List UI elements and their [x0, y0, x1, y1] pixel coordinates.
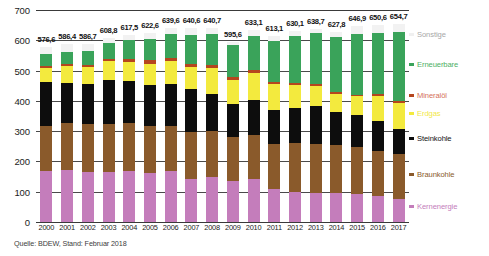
bar-segment-kernenergie [206, 177, 218, 222]
bar-segment-erneuerbare [268, 41, 280, 81]
legend-label: Mineralöl [417, 91, 447, 100]
bar-segment-kernenergie [248, 179, 260, 222]
bar-total-label: 638,7 [307, 17, 325, 26]
bar-column[interactable] [103, 38, 115, 222]
bar-column[interactable] [310, 29, 322, 222]
legend-item-steinkohle[interactable]: Steinkohle [409, 134, 451, 143]
legend-swatch-icon [409, 205, 414, 208]
bar-segment-erneuerbare [123, 40, 135, 59]
bar-segment-erneuerbare [103, 43, 115, 59]
bar-segment-erdgas [393, 103, 405, 129]
bar-segment-kernenergie [372, 196, 384, 222]
x-axis-tick-label: 2006 [163, 223, 179, 232]
bar-segment-kernenergie [393, 199, 405, 222]
bar-segment-erneuerbare [144, 39, 156, 61]
bar-segment-steinkohle [227, 104, 239, 137]
y-axis-tick-label: 0 [25, 217, 30, 228]
bar-column[interactable] [289, 31, 301, 222]
legend-label: Sonstige [417, 30, 446, 39]
legend-item-kernenergie[interactable]: Kernenergie [409, 202, 457, 211]
x-axis-tick-label: 2007 [184, 223, 200, 232]
bar-segment-erneuerbare [330, 37, 342, 92]
bar-segment-erneuerbare [206, 34, 218, 65]
bar-column[interactable] [185, 28, 197, 222]
bar-total-label: 586,4 [58, 32, 76, 41]
bar-column[interactable] [330, 32, 342, 222]
bar-segment-erneuerbare [289, 36, 301, 82]
bar-column[interactable] [372, 25, 384, 222]
bar-column[interactable] [206, 28, 218, 222]
legend-item-sonstige[interactable]: Sonstige [409, 30, 446, 39]
bar-segment-kernenergie [310, 193, 322, 222]
bar-column[interactable] [61, 44, 73, 222]
bar-column[interactable] [144, 33, 156, 222]
bar-segment-braunkohle [227, 137, 239, 181]
bar-column[interactable] [268, 36, 280, 222]
legend-swatch-icon [409, 94, 414, 97]
bar-total-label: 646,9 [348, 14, 366, 23]
bar-segment-sonstige [82, 44, 94, 51]
bar-segment-braunkohle [330, 145, 342, 192]
legend-label: Erdgas [417, 109, 440, 118]
legend-item-erneuerbare[interactable]: Erneuerbare [409, 60, 458, 69]
bar-segment-braunkohle [144, 126, 156, 173]
bar-segment-steinkohle [372, 121, 384, 151]
bar-column[interactable] [123, 35, 135, 222]
bar-column[interactable] [393, 24, 405, 222]
bar-segment-erdgas [310, 86, 322, 106]
legend-label: Kernenergie [417, 202, 457, 211]
bar-segment-erdgas [123, 62, 135, 81]
y-axis-tick-label: 200 [14, 156, 30, 167]
bar-segment-erneuerbare [351, 34, 363, 95]
bar-column[interactable] [165, 28, 177, 222]
legend-item-braunkohle[interactable]: Braunkohle [409, 170, 454, 179]
x-axis-tick-label: 2000 [39, 223, 55, 232]
legend-item-minerall[interactable]: Mineralöl [409, 91, 447, 100]
bar-segment-kernenergie [330, 193, 342, 222]
bar-segment-steinkohle [310, 106, 322, 144]
bar-segment-erdgas [61, 66, 73, 83]
bar-segment-braunkohle [268, 144, 280, 189]
bar-segment-kernenergie [144, 173, 156, 222]
x-axis-tick-label: 2002 [80, 223, 96, 232]
bar-segment-sonstige [40, 47, 52, 54]
bar-segment-steinkohle [330, 112, 342, 145]
legend-swatch-icon [409, 112, 414, 115]
legend-swatch-icon [409, 33, 414, 36]
bar-total-label: 633,1 [245, 18, 263, 27]
bar-segment-steinkohle [206, 94, 218, 132]
bar-segment-erdgas [103, 61, 115, 80]
bar-segment-erneuerbare [40, 54, 52, 66]
bar-segment-erdgas [248, 73, 260, 100]
x-axis-tick-label: 2016 [370, 223, 386, 232]
bar-segment-steinkohle [268, 110, 280, 144]
bar-segment-steinkohle [248, 100, 260, 135]
bar-segment-erdgas [227, 80, 239, 104]
bar-total-label: 617,5 [120, 23, 138, 32]
bar-column[interactable] [227, 42, 239, 222]
bar-segment-steinkohle [144, 85, 156, 126]
bar-total-label: 640,6 [183, 16, 201, 25]
x-axis-tick-label: 2001 [59, 223, 75, 232]
bar-column[interactable] [40, 47, 52, 222]
bar-segment-kernenergie [351, 194, 363, 222]
x-axis-tick-label: 2017 [391, 223, 407, 232]
bar-column[interactable] [351, 26, 363, 222]
bar-segment-kernenergie [103, 172, 115, 222]
x-axis: 2000200120022003200420052006200720082009… [36, 222, 409, 236]
x-axis-tick-label: 2012 [287, 223, 303, 232]
legend-item-erdgas[interactable]: Erdgas [409, 109, 440, 118]
bar-segment-erdgas [351, 96, 363, 115]
bar-total-label: 576,6 [38, 35, 56, 44]
x-axis-tick-label: 2005 [142, 223, 158, 232]
bar-segment-braunkohle [40, 126, 52, 171]
y-axis-tick-label: 100 [14, 186, 30, 197]
bar-segment-erneuerbare [227, 45, 239, 77]
bar-column[interactable] [248, 30, 260, 222]
bar-segment-erdgas [330, 94, 342, 113]
bar-segment-braunkohle [61, 123, 73, 170]
bar-column[interactable] [82, 44, 94, 222]
bar-segment-erneuerbare [393, 32, 405, 101]
bar-segment-erdgas [82, 67, 94, 84]
plot-area: 576,6586,4586,7608,8617,5622,6639,6640,6… [36, 10, 409, 222]
